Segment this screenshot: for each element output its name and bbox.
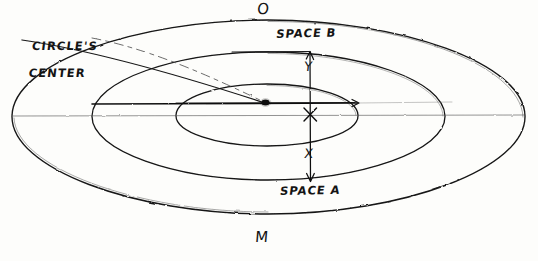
center-dot-marker [260, 99, 271, 107]
circles-center-line-1: CIRCLE'S [31, 39, 99, 53]
label-dimension-y: Y [303, 59, 313, 74]
label-space-a: SPACE A [279, 184, 341, 199]
label-space-b: SPACE B [275, 26, 337, 41]
space-b-guideline [232, 52, 310, 53]
label-point-m: M [254, 229, 269, 247]
leader-line-circles-center [92, 38, 264, 102]
label-point-o: O [256, 1, 270, 19]
label-dimension-x: X [303, 146, 314, 161]
sketch-diagram: CIRCLE'S CENTER O M SPACE B SPACE A Y X [0, 0, 538, 261]
circles-center-line-2: CENTER [28, 66, 87, 80]
label-circles-center: CIRCLE'S CENTER [6, 26, 101, 94]
horizontal-major-axis [12, 115, 525, 116]
horizontal-chord [92, 100, 452, 107]
